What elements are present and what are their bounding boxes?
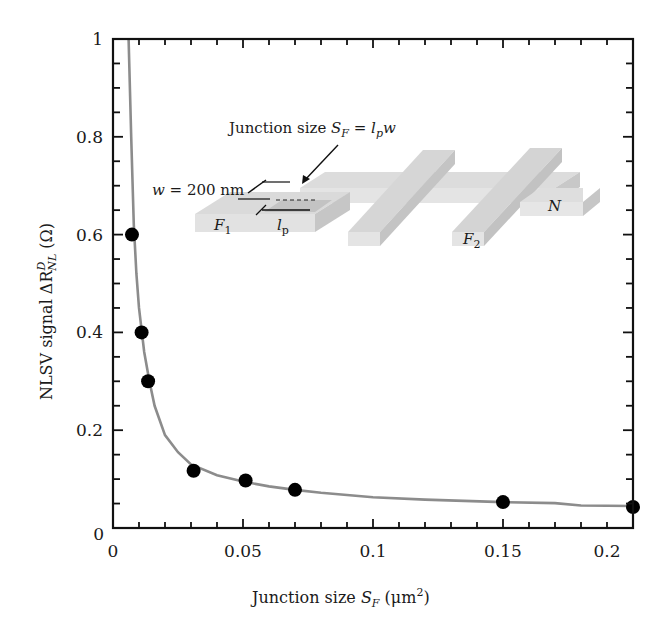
x-tick-label: 0.15 xyxy=(484,541,522,561)
junction-size-annotation: Junction size SF = lpw xyxy=(227,119,396,140)
data-point xyxy=(135,325,149,339)
data-point xyxy=(141,374,155,388)
n-end-side xyxy=(583,188,600,216)
y-tick-label: 1 xyxy=(92,29,103,49)
data-point xyxy=(496,495,510,509)
middle-bar-front xyxy=(348,232,380,246)
y-tick-label: 0.2 xyxy=(76,420,103,440)
n-label: N xyxy=(547,197,562,215)
x-tick-label: 0.05 xyxy=(224,541,262,561)
y-tick-label: 0.8 xyxy=(76,127,103,147)
y-tick-label: 0.4 xyxy=(76,322,103,342)
data-point xyxy=(239,474,253,488)
fit-curve xyxy=(129,39,633,506)
chart: Junction size SF = lpw w = 200 nm F1 F2 … xyxy=(0,0,672,632)
y-axis-title: NLSV signal ΔRDNL (Ω) xyxy=(35,223,59,400)
f1-pad-front xyxy=(195,214,315,232)
x-axis-title: Junction size SF (μm2) xyxy=(250,586,430,610)
plot-frame xyxy=(113,39,633,528)
device-schematic-inset: Junction size SF = lpw w = 200 nm F1 F2 … xyxy=(152,119,600,251)
axis-ticks xyxy=(113,39,633,528)
y-tick-label: 0.6 xyxy=(76,225,103,245)
width-label: w = 200 nm xyxy=(152,181,244,199)
x-tick-label: 0.1 xyxy=(359,541,386,561)
x-tick-label: 0 xyxy=(108,541,119,561)
data-point xyxy=(187,464,201,478)
plot-series xyxy=(125,39,640,514)
data-point xyxy=(288,483,302,497)
data-point xyxy=(125,228,139,242)
axis-tick-labels: 00.050.10.150.200.20.40.60.81 xyxy=(76,29,621,561)
x-tick-label: 0.2 xyxy=(593,541,620,561)
y-tick-label: 0 xyxy=(93,524,104,544)
